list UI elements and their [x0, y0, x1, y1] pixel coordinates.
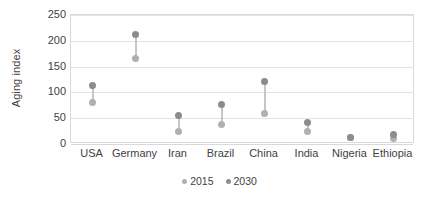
x-tick-label-india: India: [295, 146, 319, 160]
x-tick-label-germany: Germany: [112, 146, 157, 160]
data-point-2015[interactable]: [261, 110, 268, 117]
y-tick-label: 100: [32, 86, 66, 97]
gridline: [71, 41, 413, 42]
x-tick-label-china: China: [249, 146, 278, 160]
data-point-2030[interactable]: [304, 119, 311, 126]
x-tick-label-iran: Iran: [168, 146, 187, 160]
x-tick-label-ethiopia: Ethiopia: [373, 146, 413, 160]
legend-item-2030[interactable]: 2030: [226, 176, 257, 187]
data-point-2030[interactable]: [89, 82, 96, 89]
y-tick-label: 200: [32, 34, 66, 45]
x-tick-label-nigeria: Nigeria: [332, 146, 367, 160]
data-point-2015[interactable]: [175, 128, 182, 135]
data-point-2030[interactable]: [347, 134, 354, 141]
connector-line: [264, 82, 266, 113]
gridline: [71, 92, 413, 93]
legend-marker-icon: [182, 179, 187, 184]
y-tick-label: 50: [32, 112, 66, 123]
gridline: [71, 144, 413, 145]
y-axis-tick-labels: 050100150200250: [32, 14, 66, 143]
x-tick-label-usa: USA: [80, 146, 103, 160]
data-point-2015[interactable]: [304, 128, 311, 135]
gridline: [71, 15, 413, 16]
legend-marker-icon: [226, 179, 231, 184]
y-tick-label: 150: [32, 60, 66, 71]
data-point-2030[interactable]: [132, 31, 139, 38]
data-point-2015[interactable]: [132, 55, 139, 62]
data-point-2030[interactable]: [218, 101, 225, 108]
y-tick-label: 250: [32, 9, 66, 20]
data-point-2030[interactable]: [261, 78, 268, 85]
data-point-2015[interactable]: [218, 121, 225, 128]
chart-legend: 20152030: [0, 176, 439, 187]
plot-area: [70, 14, 414, 143]
x-tick-label-brazil: Brazil: [207, 146, 235, 160]
data-point-2015[interactable]: [89, 99, 96, 106]
legend-label: 2015: [190, 176, 213, 187]
legend-item-2015[interactable]: 2015: [182, 176, 213, 187]
y-tick-label: 0: [32, 138, 66, 149]
aging-index-dumbbell-chart: Aging index 050100150200250 USAGermanyIr…: [0, 0, 439, 207]
x-axis-tick-labels: USAGermanyIranBrazilChinaIndiaNigeriaEth…: [70, 146, 414, 162]
gridline: [71, 67, 413, 68]
legend-label: 2030: [234, 176, 257, 187]
gridline: [71, 118, 413, 119]
data-point-2030[interactable]: [175, 112, 182, 119]
